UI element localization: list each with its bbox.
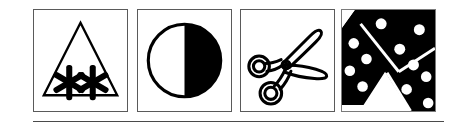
scissors-icon <box>241 10 334 111</box>
panel-strip <box>0 0 452 116</box>
horizontal-rule <box>33 121 444 122</box>
triangle-outline <box>44 23 117 95</box>
pictogram-figure <box>0 0 452 129</box>
panel-snowflake-triangle <box>33 9 128 112</box>
ring-handle-upper-inner <box>253 61 264 72</box>
dominoes-icon <box>342 10 435 111</box>
half-filled-circle-icon <box>138 10 231 111</box>
snowflake-triangle-icon <box>34 10 127 111</box>
panel-half-filled-circle <box>137 9 232 112</box>
panel-scissors <box>240 9 335 112</box>
ring-handle-lower-inner <box>265 87 277 99</box>
right-half-fill <box>185 24 221 96</box>
panel-dominoes <box>341 9 436 112</box>
